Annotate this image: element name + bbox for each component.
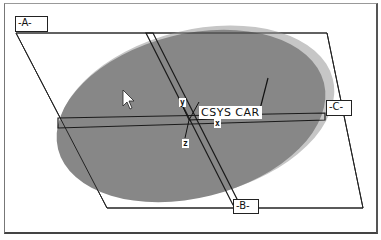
axis-label-y: y [179,98,186,107]
datum-tag-c-label: -C- [329,101,343,112]
axis-label-z: z [182,139,189,148]
datum-tag-b-label: -B- [236,200,250,211]
csys-name-label[interactable]: CSYS CAR [199,106,262,119]
datum-plane-a-edge-right [327,33,363,208]
datum-tag-a-label: -A- [18,17,32,28]
graphics-viewport[interactable]: -A- -B- -C- CSYS CAR y x z [0,0,381,240]
datum-tag-b[interactable]: -B- [233,199,259,214]
datum-tag-c[interactable]: -C- [326,100,352,116]
axis-label-x: x [214,119,221,128]
model-scene[interactable] [0,0,381,240]
datum-tag-a[interactable]: -A- [15,16,48,32]
